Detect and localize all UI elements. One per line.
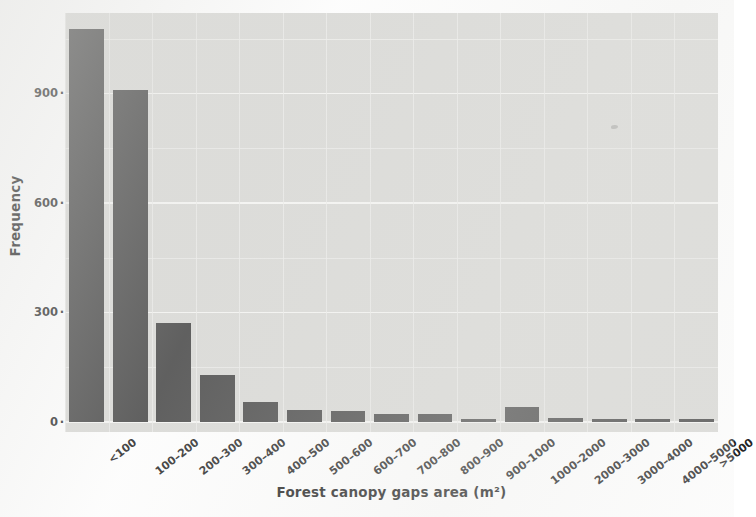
x-tick-label: 100–200	[153, 436, 202, 478]
bar	[418, 414, 453, 422]
bar	[592, 419, 627, 422]
x-tick-label: 800–900	[458, 436, 507, 478]
bar-series	[65, 13, 718, 432]
y-tick-mark: ·	[58, 196, 64, 210]
bar	[548, 418, 583, 422]
y-axis-title: Frequency	[2, 0, 28, 432]
y-tick-label: 900·	[22, 86, 64, 100]
bar	[505, 407, 540, 422]
y-tick-label-text: 600	[34, 196, 58, 210]
x-tick-label: 400–500	[284, 436, 333, 478]
y-tick-label-text: 900	[34, 86, 58, 100]
bar	[461, 419, 496, 422]
bar	[69, 29, 104, 422]
x-tick-label: 700–800	[414, 436, 463, 478]
x-tick-label: 500–600	[327, 436, 376, 478]
x-tick-label: 600–700	[371, 436, 420, 478]
y-tick-label-text: 300	[34, 305, 58, 319]
bar	[331, 411, 366, 422]
x-tick-label: <100	[106, 436, 139, 466]
y-tick-label: 300·	[22, 305, 64, 319]
x-tick-label: 200–300	[197, 436, 246, 478]
bar	[374, 414, 409, 422]
bar	[635, 419, 670, 422]
y-tick-mark: ·	[58, 415, 64, 429]
plot-panel	[65, 13, 718, 432]
bar	[113, 90, 148, 422]
y-axis-title-text: Frequency	[7, 176, 23, 257]
y-tick-mark: ·	[58, 305, 64, 319]
y-tick-mark: ·	[58, 86, 64, 100]
x-axis-ticks: <100100–200200–300300–400400–500500–6006…	[65, 432, 718, 487]
bar	[156, 323, 191, 422]
bar	[679, 419, 714, 422]
y-tick-label-text: 0	[50, 415, 58, 429]
bar	[287, 410, 322, 422]
y-tick-label: 600·	[22, 196, 64, 210]
x-tick-label: 300–400	[240, 436, 289, 478]
y-tick-label: 0·	[22, 415, 64, 429]
bar	[200, 375, 235, 422]
bar	[243, 402, 278, 422]
x-axis-title: Forest canopy gaps area (m²)	[65, 484, 718, 500]
